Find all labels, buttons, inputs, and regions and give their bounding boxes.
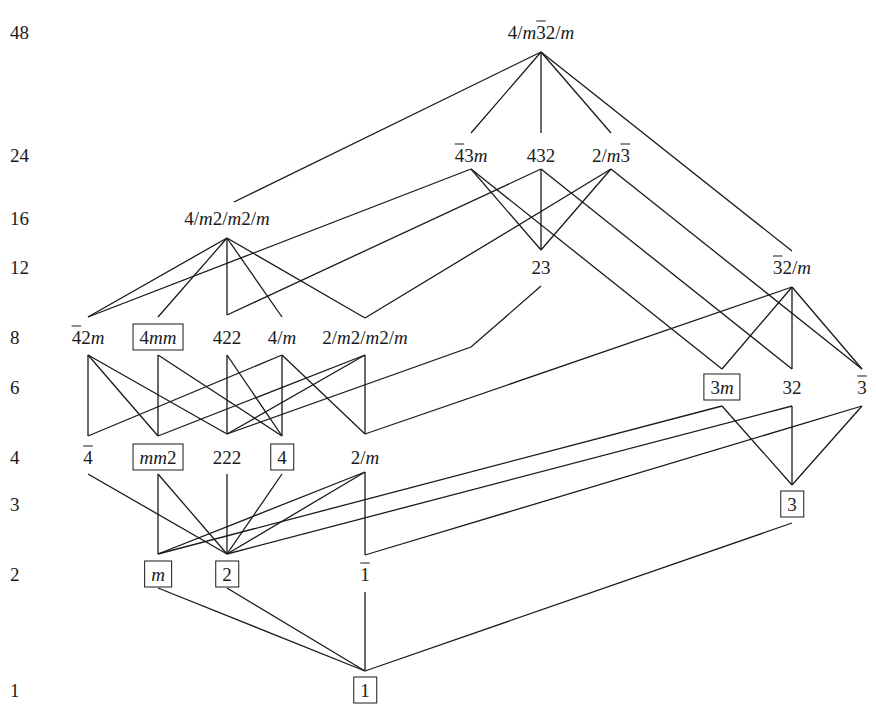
edge-m-3-to--3 bbox=[611, 169, 862, 369]
point-group-4_m: 4/m bbox=[264, 326, 301, 349]
point-group-mm2: mm2 bbox=[133, 444, 184, 471]
point-group-4_mmm: 4/m2/m2/m bbox=[180, 207, 274, 230]
point-group-2_m: 2/m bbox=[347, 446, 384, 469]
order-label-8: 8 bbox=[10, 328, 20, 347]
point-group-lattice-diagram: 48241612864321 4/m32/m43m4322/m34/m2/m2/… bbox=[0, 0, 876, 716]
point-group-3: 3 bbox=[780, 491, 804, 518]
edge--43m-to--42m bbox=[88, 169, 471, 317]
point-group-422: 422 bbox=[209, 326, 246, 349]
edge-4/mmm-to--42m bbox=[88, 238, 227, 317]
edge-2/m-to-2 bbox=[227, 472, 365, 554]
point-group-_3: 3 bbox=[853, 376, 871, 399]
point-group-_1: 1 bbox=[356, 563, 374, 586]
edge-432-to-32 bbox=[541, 169, 792, 369]
point-group-m3m: 4/m32/m bbox=[504, 21, 579, 44]
point-group-_43m: 43m bbox=[451, 144, 492, 167]
edge-3-to-1 bbox=[365, 523, 792, 671]
edge-2/m-to-m bbox=[158, 472, 365, 554]
order-label-24: 24 bbox=[10, 146, 29, 165]
edge--43m-to-3m bbox=[471, 169, 722, 369]
edge-mmm-to-222 bbox=[227, 355, 365, 434]
point-group-4: 4 bbox=[270, 444, 294, 471]
edge-m-to-1 bbox=[158, 588, 365, 671]
point-group-222: 222 bbox=[209, 446, 246, 469]
edge-m-3-to-mmm bbox=[365, 169, 611, 318]
order-label-1: 1 bbox=[10, 681, 20, 700]
edge-4/m-to-2/m bbox=[282, 355, 365, 434]
point-group-23: 23 bbox=[528, 256, 555, 279]
point-group-2: 2 bbox=[215, 561, 239, 588]
edge-m-3-to-23 bbox=[541, 169, 611, 250]
edge--3m-to--3 bbox=[792, 287, 862, 369]
point-group-432: 432 bbox=[523, 144, 560, 167]
order-label-4: 4 bbox=[10, 448, 20, 467]
point-group-32: 32 bbox=[779, 376, 806, 399]
point-group-_3m: 32/m bbox=[769, 256, 815, 279]
edge--42m-to-mm2 bbox=[88, 355, 158, 436]
edge-4/m-to--4 bbox=[88, 355, 282, 436]
order-label-6: 6 bbox=[10, 378, 20, 397]
edge-23-to-222 bbox=[227, 286, 541, 434]
point-group-_4: 4 bbox=[79, 446, 97, 469]
edge-2-to-1 bbox=[227, 588, 365, 671]
edge-m3m-to--3m bbox=[541, 52, 792, 251]
point-group-m: m bbox=[144, 561, 172, 588]
edge--3-to-3 bbox=[792, 406, 862, 485]
edge-m3m-to-4/mmm bbox=[234, 52, 541, 202]
point-group-m_3: 2/m3 bbox=[588, 144, 634, 167]
subgroup-edges bbox=[0, 0, 876, 716]
edge-m3m-to--43m bbox=[471, 52, 541, 133]
edge-m3m-to-m-3 bbox=[541, 52, 611, 133]
point-group-mmm: 2/m2/m2/m bbox=[318, 326, 412, 349]
edge-4/mmm-to-4mm bbox=[158, 238, 227, 317]
edge-4mm-to-4 bbox=[158, 355, 282, 436]
order-label-16: 16 bbox=[10, 209, 29, 228]
point-group-_42m: 42m bbox=[68, 326, 109, 349]
edge-4/mmm-to-4/m bbox=[227, 238, 282, 317]
order-label-12: 12 bbox=[10, 258, 29, 277]
point-group-3m: 3m bbox=[703, 374, 740, 401]
point-group-1: 1 bbox=[353, 677, 377, 704]
order-label-2: 2 bbox=[10, 565, 20, 584]
edge--43m-to-23 bbox=[471, 169, 541, 250]
edge-432-to-422 bbox=[227, 169, 541, 315]
order-label-3: 3 bbox=[10, 495, 20, 514]
point-group-4mm: 4mm bbox=[133, 324, 184, 351]
edge-32-to-2 bbox=[227, 406, 792, 554]
order-label-48: 48 bbox=[10, 23, 29, 42]
edge-mm2-to-2 bbox=[158, 474, 227, 554]
